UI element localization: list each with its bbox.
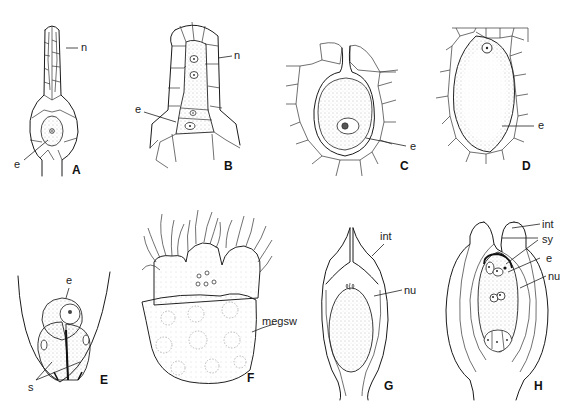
label-e: e (546, 252, 552, 264)
label-e: e (14, 158, 20, 170)
label-n: n (234, 49, 240, 61)
panel-e: e s E (18, 272, 110, 393)
label-s: s (28, 381, 34, 393)
panel-label-b: B (224, 159, 233, 173)
label-sy: sy (542, 233, 554, 245)
panel-label-e: E (100, 373, 108, 387)
label-int: int (542, 218, 554, 230)
panel-label-h: H (534, 379, 543, 393)
label-nu: nu (548, 270, 560, 282)
panel-a: n e A (14, 26, 87, 177)
label-e: e (538, 119, 544, 131)
botanical-figure: n e A n e B e C (0, 0, 586, 416)
panel-f: megsw F (142, 210, 297, 385)
panel-label-a: A (72, 163, 81, 177)
label-int: int (380, 230, 392, 242)
panel-label-d: D (522, 159, 531, 173)
label-n: n (81, 41, 87, 53)
label-e: e (66, 274, 72, 286)
label-megsw: megsw (262, 315, 297, 327)
panel-label-g: G (384, 379, 393, 393)
panel-label-c: C (400, 159, 409, 173)
panel-c: e C (286, 43, 416, 176)
label-e: e (410, 140, 416, 152)
panel-d: e D (436, 28, 544, 173)
panel-b: n e B (135, 22, 240, 173)
label-e: e (135, 103, 141, 115)
panel-g: int nu G (322, 228, 417, 400)
panel-h: int sy e nu H (446, 218, 560, 400)
panel-label-f: F (247, 371, 254, 385)
label-nu: nu (404, 284, 416, 296)
